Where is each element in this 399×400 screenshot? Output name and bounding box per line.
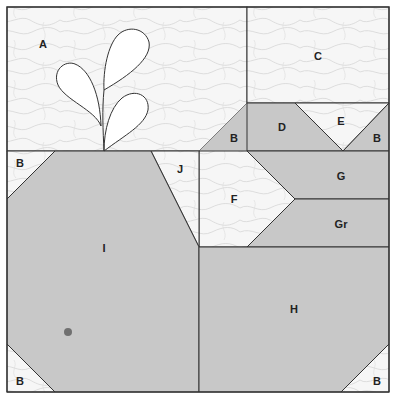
label-b-bottom-left: B [16, 375, 24, 387]
label-a: A [39, 38, 47, 50]
quilt-block-diagram: A C B D E B B J F G Gr I H B B [0, 0, 399, 400]
label-b-top-right: B [373, 132, 381, 144]
label-g: G [337, 170, 346, 182]
label-gr: Gr [335, 218, 349, 230]
label-h: H [290, 303, 298, 315]
label-f: F [231, 193, 238, 205]
piece-h [199, 247, 389, 392]
dot-marker-icon [64, 328, 72, 336]
label-b-top-left: B [230, 132, 238, 144]
label-b-bottom-right: B [373, 375, 381, 387]
label-j: J [177, 163, 183, 175]
label-e: E [337, 115, 344, 127]
label-d: D [278, 121, 286, 133]
label-c: C [314, 50, 322, 62]
label-b-middle-left: B [16, 157, 24, 169]
label-i: I [102, 242, 105, 254]
